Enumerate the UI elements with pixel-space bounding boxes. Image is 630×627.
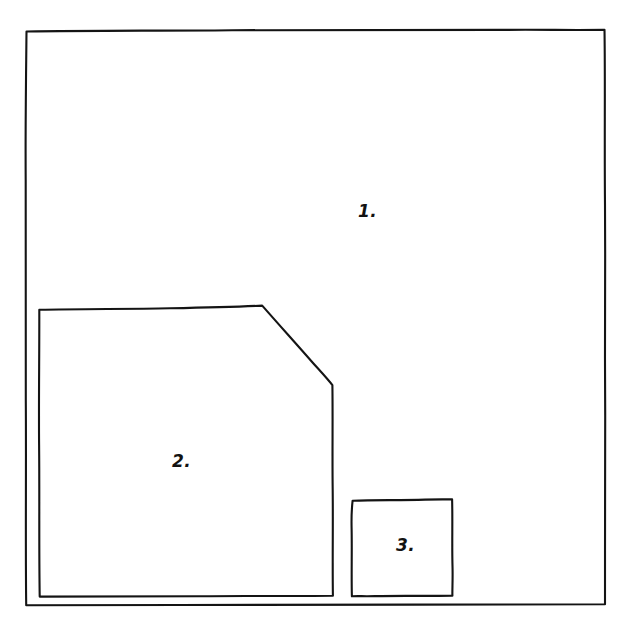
region-1-outline[interactable] (26, 30, 606, 605)
region-2-label: 2. (172, 453, 191, 470)
region-1-label: 1. (358, 203, 377, 220)
region-1-path (26, 30, 606, 605)
sketch-canvas: 1. 2. 3. (0, 0, 630, 627)
sketch-drawing (0, 0, 630, 627)
region-3-label: 3. (396, 537, 415, 554)
